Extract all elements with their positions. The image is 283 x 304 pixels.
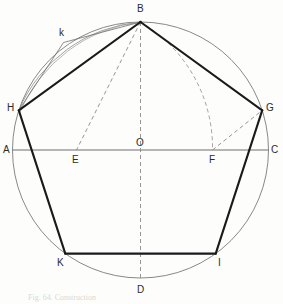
vertex-dot-h bbox=[18, 109, 20, 111]
point-label-o: O bbox=[136, 138, 144, 148]
thin-line-k-h bbox=[19, 43, 64, 111]
point-label-g: G bbox=[266, 103, 274, 113]
point-label-d: D bbox=[137, 285, 144, 295]
thin-line-b-k bbox=[64, 22, 141, 43]
vertex-dot-g bbox=[261, 109, 263, 111]
dashed-line-be bbox=[77, 22, 141, 150]
point-label-k-lower: k bbox=[59, 28, 64, 38]
point-label-h: H bbox=[7, 103, 14, 113]
geometry-drawing bbox=[0, 0, 283, 304]
figure-canvas: A B C D E F G H I K O k Fig. 64. Constru… bbox=[0, 0, 283, 304]
point-label-f: F bbox=[209, 155, 215, 165]
dashed-arc-b-to-f bbox=[141, 22, 213, 150]
point-label-k-upper: K bbox=[57, 258, 64, 268]
point-label-b: B bbox=[137, 4, 144, 14]
point-label-i: I bbox=[218, 258, 221, 268]
vertex-dot-i bbox=[215, 253, 217, 255]
point-label-e: E bbox=[72, 155, 79, 165]
vertex-dot-b bbox=[139, 21, 142, 24]
point-label-a: A bbox=[3, 145, 10, 155]
vertex-dot-k bbox=[64, 253, 66, 255]
point-label-c: C bbox=[271, 145, 278, 155]
figure-caption: Fig. 64. Construction bbox=[28, 293, 96, 302]
